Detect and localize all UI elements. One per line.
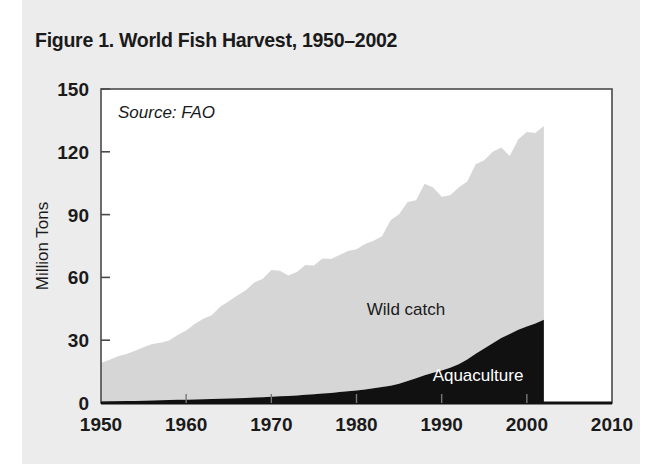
y-tick-label: 150 <box>57 79 89 100</box>
x-tick-label: 1990 <box>421 414 463 435</box>
source-note: Source: FAO <box>118 103 215 122</box>
y-tick-label: 90 <box>68 205 89 226</box>
y-tick-label: 0 <box>78 393 89 414</box>
y-tick-label: 30 <box>68 330 89 351</box>
x-tick-label: 1970 <box>250 414 292 435</box>
fish-harvest-area-chart: 0306090120150 19501960197019801990200020… <box>0 0 670 464</box>
x-tick-label: 1960 <box>165 414 207 435</box>
wild-catch-label: Wild catch <box>367 300 445 319</box>
x-tick-label: 1980 <box>335 414 377 435</box>
figure-page: Figure 1. World Fish Harvest, 1950–2002 … <box>0 0 670 464</box>
x-tick-label: 1950 <box>80 414 122 435</box>
x-tick-label: 2000 <box>506 414 548 435</box>
y-tick-label: 120 <box>57 142 89 163</box>
y-tick-label: 60 <box>68 267 89 288</box>
x-tick-label: 2010 <box>591 414 633 435</box>
aquaculture-label: Aquaculture <box>433 366 524 385</box>
y-axis-title: Million Tons <box>33 202 52 291</box>
